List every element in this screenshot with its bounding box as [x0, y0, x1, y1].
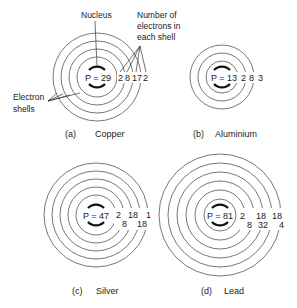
- nucleus-label: Nucleus: [81, 10, 112, 20]
- shell-count-2: 8: [247, 220, 252, 230]
- nucleus-arc-top: [88, 205, 104, 208]
- shell-count-2: 8: [122, 219, 127, 229]
- caption-name: Silver: [96, 286, 119, 296]
- atom-aluminium: P = 13 2 8 3 (b) Aluminium: [190, 45, 272, 139]
- shell-count-4: 18: [137, 219, 147, 229]
- atom-copper: P = 29 2 8 17 2 Nucleus Number of electr…: [13, 10, 181, 139]
- electron-count-label-3: each shell: [137, 32, 175, 42]
- electron-shells-label-2: shells: [13, 104, 35, 114]
- proton-count: P = 47: [83, 211, 109, 221]
- caption-letter: (d): [201, 286, 212, 296]
- proton-count: P = 13: [211, 73, 237, 83]
- caption-letter: (b): [193, 129, 204, 139]
- nucleus-arc-bottom: [214, 84, 230, 87]
- nucleus-arc-bottom: [212, 222, 228, 225]
- shell-count-2: 8: [125, 73, 130, 83]
- caption-letter: (c): [72, 286, 83, 296]
- nucleus-arc-top: [212, 205, 228, 208]
- caption-name: Aluminium: [215, 129, 257, 139]
- shell-count-1: 2: [118, 73, 123, 83]
- shell-count-2: 8: [249, 73, 254, 83]
- electron-count-label-2: electrons in: [137, 21, 181, 31]
- atom-lead: P = 81 2 8 18 32 18 4 (d) Lead: [159, 154, 288, 296]
- nucleus-arc-top: [89, 67, 105, 70]
- shell-count-1: 2: [241, 73, 246, 83]
- caption-letter: (a): [65, 129, 76, 139]
- nucleus-arc-bottom: [88, 222, 104, 225]
- proton-count: P = 29: [85, 73, 111, 83]
- shell-count-4: 2: [143, 73, 148, 83]
- atomic-structure-diagram: P = 29 2 8 17 2 Nucleus Number of electr…: [0, 0, 297, 308]
- electron-shells-label-1: Electron: [13, 92, 44, 102]
- nucleus-pointer: [95, 21, 97, 66]
- nucleus-arc-bottom: [89, 84, 105, 87]
- shell-count-4: 32: [258, 220, 268, 230]
- nucleus-arc-top: [214, 67, 230, 70]
- atom-silver: P = 47 2 8 18 18 1 (c) Silver: [44, 163, 151, 296]
- shell-count-5: 1: [146, 210, 151, 220]
- caption-name: Copper: [95, 129, 125, 139]
- shell-count-3: 17: [132, 73, 142, 83]
- shell-count-6: 4: [279, 220, 284, 230]
- shell-count-1: 2: [240, 211, 245, 221]
- shell-count-3: 3: [258, 73, 263, 83]
- electron-count-label-1: Number of: [137, 10, 177, 20]
- proton-count: P = 81: [207, 211, 233, 221]
- shell-count-1: 2: [116, 210, 121, 220]
- caption-name: Lead: [224, 286, 244, 296]
- count-pointer-4: [140, 46, 146, 72]
